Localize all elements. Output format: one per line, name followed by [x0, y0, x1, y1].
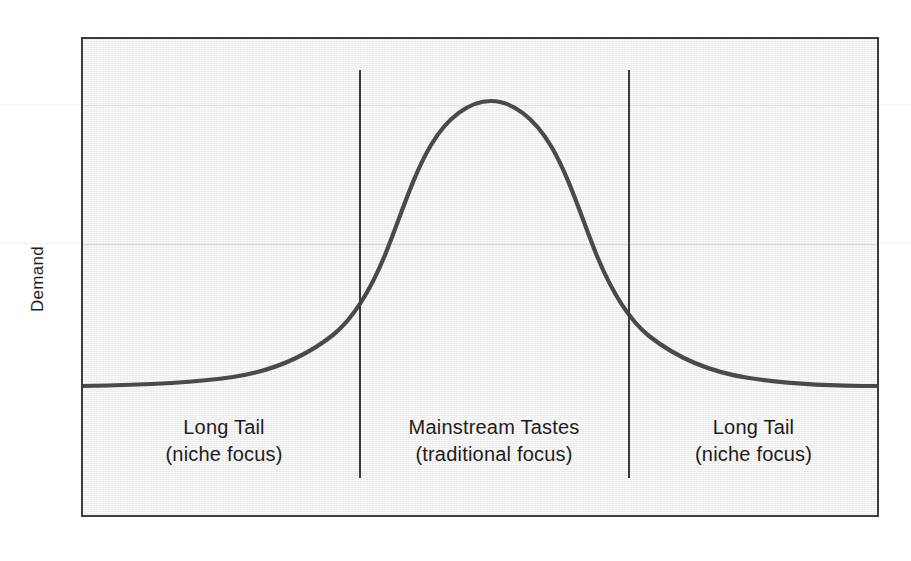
demand-curve-path: [83, 101, 877, 386]
y-axis-title: Demand: [28, 212, 58, 312]
segment-label-mainstream: Mainstream Tastes (traditional focus): [361, 414, 627, 468]
segment-label-long-tail-left: Long Tail (niche focus): [93, 414, 355, 468]
segment-divider-right: [628, 70, 630, 478]
segment-label-line1: Mainstream Tastes: [361, 414, 627, 441]
plot-area: Long Tail (niche focus) Mainstream Taste…: [81, 37, 879, 517]
segment-label-long-tail-right: Long Tail (niche focus): [632, 414, 875, 468]
segment-label-line2: (niche focus): [632, 441, 875, 468]
figure-canvas: Demand Long Tail (niche focus) Mainstrea…: [0, 0, 911, 561]
segment-label-line2: (traditional focus): [361, 441, 627, 468]
segment-label-line1: Long Tail: [632, 414, 875, 441]
segment-label-line1: Long Tail: [93, 414, 355, 441]
segment-label-line2: (niche focus): [93, 441, 355, 468]
